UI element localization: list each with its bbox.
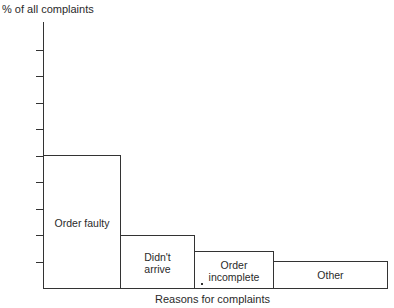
y-axis-title: % of all complaints xyxy=(2,3,94,15)
bar-label: Didn'tarrive xyxy=(121,251,194,275)
y-tick xyxy=(36,235,43,236)
dot-mark xyxy=(201,283,203,285)
bar-label: Order faulty xyxy=(44,217,120,229)
bar-label: Orderincomplete xyxy=(195,259,273,283)
y-tick xyxy=(36,156,43,157)
bar-order-faulty: Order faulty xyxy=(43,155,121,289)
y-tick xyxy=(36,182,43,183)
bar-order-incomplete: Orderincomplete xyxy=(194,251,274,289)
bar-other: Other xyxy=(273,261,388,289)
y-tick xyxy=(36,129,43,130)
bar-label: Other xyxy=(274,269,387,281)
y-tick xyxy=(36,76,43,77)
y-tick xyxy=(36,262,43,263)
x-axis-title: Reasons for complaints xyxy=(155,293,270,305)
y-tick xyxy=(36,209,43,210)
y-tick xyxy=(36,50,43,51)
y-tick xyxy=(36,103,43,104)
bar-didn-t-arrive: Didn'tarrive xyxy=(120,235,195,289)
